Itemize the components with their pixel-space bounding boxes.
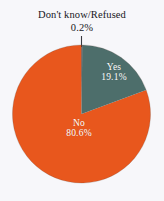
pie-label-yes: Yes 19.1%	[88, 63, 140, 83]
pie-label-yes-value: 19.1%	[88, 73, 140, 83]
pie-label-no-value: 80.6%	[50, 129, 108, 139]
pie-label-no: No 80.6%	[50, 119, 108, 139]
pie-graphic	[0, 0, 164, 201]
pie-chart: Don't know/Refused 0.2% Yes 19.1% No 80.…	[0, 0, 164, 201]
